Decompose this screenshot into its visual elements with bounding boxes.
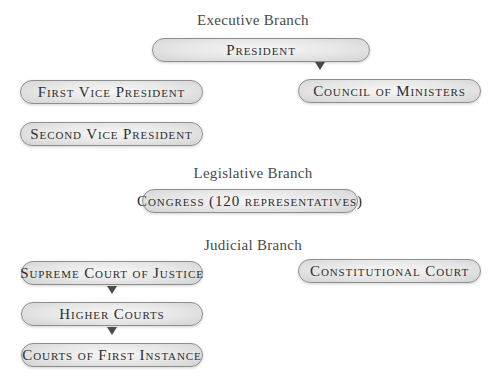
arrow-down-icon [107,327,117,335]
second-vice-president-label: Second Vice President [30,126,192,143]
second-vice-president-node: Second Vice President [20,122,203,146]
first-vice-president-node: First Vice President [20,80,203,104]
congress-label: Congress (120 representatives) [137,193,363,210]
council-of-ministers-node: Council of Ministers [298,79,481,103]
courts-first-instance-label: Courts of First Instance [22,347,201,364]
president-label: President [226,42,296,59]
judicial-branch-heading: Judicial Branch [204,237,302,254]
constitutional-court-node: Constitutional Court [298,259,481,283]
constitutional-court-label: Constitutional Court [310,263,469,280]
higher-courts-label: Higher Courts [59,306,164,323]
president-node: President [152,38,370,62]
courts-first-instance-node: Courts of First Instance [21,343,203,367]
supreme-court-node: Supreme Court of Justice [21,261,203,285]
supreme-court-label: Supreme Court of Justice [20,265,204,282]
arrow-down-icon [315,62,325,70]
executive-branch-heading: Executive Branch [197,12,309,29]
council-of-ministers-label: Council of Ministers [313,83,466,100]
legislative-branch-heading: Legislative Branch [193,165,312,182]
arrow-down-icon [107,286,117,294]
higher-courts-node: Higher Courts [21,302,203,326]
first-vice-president-label: First Vice President [38,84,185,101]
congress-node: Congress (120 representatives) [142,189,358,213]
